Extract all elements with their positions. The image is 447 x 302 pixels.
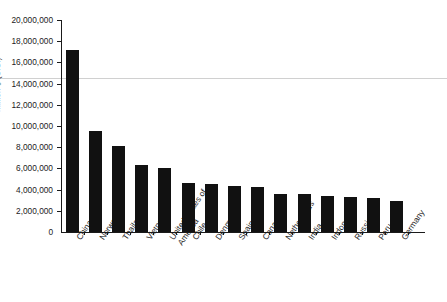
y-axis-tick-label: 2,000,000 <box>16 206 53 216</box>
y-axis-tick-label: 10,000,000 <box>11 121 53 131</box>
y-axis-tick-label: 4,000,000 <box>16 185 53 195</box>
y-axis-tick-label: 8,000,000 <box>16 142 53 152</box>
y-axis-tick <box>57 84 61 85</box>
y-axis-tick <box>57 211 61 212</box>
y-axis-tick-label: 14,000,000 <box>11 79 53 89</box>
y-axis-tick-labels: 20,000,00018,000,00016,000,00014,000,000… <box>0 20 56 232</box>
y-axis-tick <box>57 20 61 21</box>
y-axis-tick-label: 20,000,000 <box>11 15 53 25</box>
y-axis-tick-label: 6,000,000 <box>16 163 53 173</box>
bar <box>228 186 241 232</box>
y-axis-tick-label: 18,000,000 <box>11 36 53 46</box>
bar-chart: 20,000,00018,000,00016,000,00014,000,000… <box>0 0 447 302</box>
y-axis-tick <box>57 126 61 127</box>
y-axis-tick-label: 12,000,000 <box>11 100 53 110</box>
bar <box>112 146 125 232</box>
y-axis-tick <box>57 62 61 63</box>
y-axis-tick <box>57 168 61 169</box>
plot-area: ChinaNorwayThailandVietnamUnited States … <box>61 20 425 232</box>
bar <box>135 165 148 232</box>
y-axis-tick-label: 0 <box>48 227 53 237</box>
y-axis-title: Million $ (U.S.) <box>0 58 2 112</box>
bar <box>298 194 311 232</box>
y-axis-tick <box>57 105 61 106</box>
bar <box>367 198 380 232</box>
y-axis-tick <box>57 147 61 148</box>
bar <box>321 196 334 232</box>
bar <box>274 194 287 232</box>
y-axis-tick <box>57 190 61 191</box>
bar <box>66 50 79 232</box>
bar <box>344 197 357 232</box>
y-axis-line <box>61 20 62 232</box>
bar <box>89 131 102 232</box>
bar <box>158 168 171 232</box>
y-axis-tick <box>57 41 61 42</box>
bar <box>182 183 195 232</box>
bar <box>251 187 264 232</box>
y-axis-tick-label: 16,000,000 <box>11 57 53 67</box>
bar <box>390 201 403 232</box>
bar <box>205 184 218 232</box>
